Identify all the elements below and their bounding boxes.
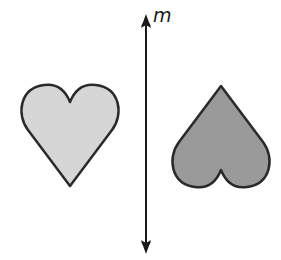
left-heart xyxy=(21,85,118,186)
line-m-label: m xyxy=(153,4,172,26)
reflection-diagram xyxy=(0,0,281,260)
right-heart xyxy=(172,86,269,187)
